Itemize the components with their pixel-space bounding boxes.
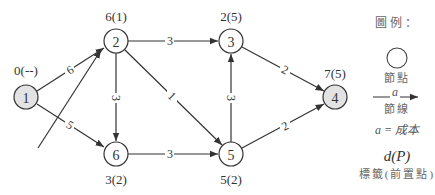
weight-2-6: 3 <box>109 93 123 103</box>
node-6: 6 <box>104 142 128 166</box>
svg-text:4: 4 <box>332 91 339 106</box>
legend-arc-symbol: a <box>392 85 398 99</box>
node-2: 2 <box>104 29 128 53</box>
weight-2-3: 3 <box>165 34 174 48</box>
svg-text:3: 3 <box>109 95 123 101</box>
legend-cost-label: a = 成本 <box>375 123 421 137</box>
weight-2-5: 1 <box>165 89 179 103</box>
svg-text:3: 3 <box>167 34 173 48</box>
legend-title: 圖例： <box>375 16 420 30</box>
svg-text:3: 3 <box>224 95 238 101</box>
svg-text:2: 2 <box>113 35 120 50</box>
tag-node-2: 6(1) <box>105 9 127 24</box>
legend: 圖例： 節點 a 節線 a = 成本 d(P) 標籤(前置點) <box>359 16 435 181</box>
tag-node-6: 3(2) <box>105 172 127 187</box>
weight-1-2: 6 <box>64 62 77 77</box>
legend-arc-label: 節線 <box>384 102 410 115</box>
weight-5-4: 2 <box>279 118 291 133</box>
svg-text:1: 1 <box>23 91 30 106</box>
network-diagram-main: 6 5 3 3 1 3 3 2 <box>0 0 435 195</box>
legend-node-icon <box>387 48 407 68</box>
svg-text:3: 3 <box>228 35 235 50</box>
node-5: 5 <box>219 142 243 166</box>
edges <box>37 41 324 154</box>
weight-5-3: 3 <box>224 93 238 103</box>
tag-node-3: 2(5) <box>220 9 242 24</box>
legend-tag-label: 標籤(前置點) <box>359 167 435 181</box>
weight-3-4: 2 <box>279 62 291 77</box>
tag-node-4: 7(5) <box>324 66 346 81</box>
legend-tag-symbol: d(P) <box>384 148 411 165</box>
tag-node-1: 0(--) <box>14 63 38 78</box>
legend-node-label: 節點 <box>384 71 410 84</box>
node-1: 1 <box>14 85 38 109</box>
node-3: 3 <box>219 29 243 53</box>
node-tags: 0(--) 6(1) 2(5) 7(5) 5(2) 3(2) <box>14 9 346 187</box>
node-4: 4 <box>323 85 347 109</box>
tag-node-5: 5(2) <box>220 172 242 187</box>
nodes: 1 2 3 4 5 6 <box>14 29 347 166</box>
svg-text:6: 6 <box>113 148 120 163</box>
weight-6-5: 3 <box>165 147 174 161</box>
edge-weights: 6 5 3 3 1 3 3 2 <box>64 34 291 161</box>
weight-1-6: 5 <box>64 117 77 132</box>
svg-text:5: 5 <box>228 148 235 163</box>
svg-text:3: 3 <box>167 147 173 161</box>
